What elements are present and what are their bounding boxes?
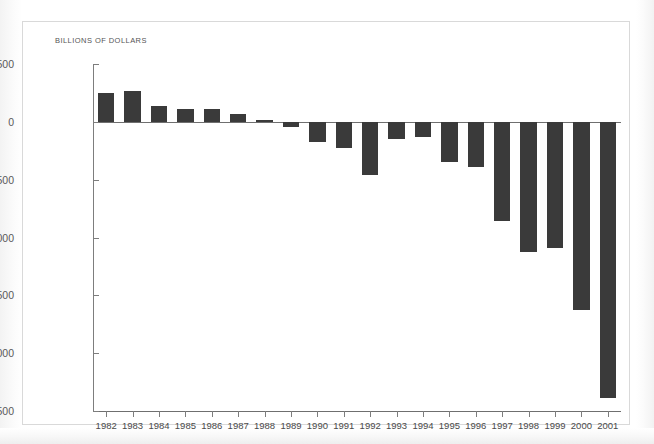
bar-1987 (230, 114, 246, 122)
x-axis-label-1991: 1991 (333, 420, 354, 431)
bar-1985 (177, 109, 193, 122)
zero-baseline (93, 122, 621, 123)
bar-2000 (573, 122, 589, 310)
x-axis-label-1999: 1999 (544, 420, 565, 431)
x-tick-mark (317, 411, 318, 417)
bar-1983 (124, 91, 140, 122)
x-axis-label-1989: 1989 (280, 420, 301, 431)
x-tick-mark (238, 411, 239, 417)
x-tick-mark (423, 411, 424, 417)
x-tick-mark (502, 411, 503, 417)
x-axis-label-2001: 2001 (597, 420, 618, 431)
bar-1991 (336, 122, 352, 149)
x-tick-mark (106, 411, 107, 417)
x-tick-mark (449, 411, 450, 417)
x-tick-mark (185, 411, 186, 417)
y-tick-mark (93, 295, 99, 296)
y-axis-label: 0 (8, 116, 14, 128)
y-axis-label: −2,500 (0, 405, 14, 417)
x-tick-mark (555, 411, 556, 417)
x-axis-label-1982: 1982 (96, 420, 117, 431)
x-axis-label-1987: 1987 (228, 420, 249, 431)
y-axis-label: −2,000 (0, 347, 14, 359)
bar-2001 (600, 122, 616, 398)
bar-1994 (415, 122, 431, 137)
y-tick-mark (93, 64, 99, 65)
x-axis-label-1998: 1998 (518, 420, 539, 431)
x-tick-mark (529, 411, 530, 417)
x-axis-label-1994: 1994 (412, 420, 433, 431)
x-axis-line (93, 411, 621, 412)
x-axis-label-1983: 1983 (122, 420, 143, 431)
x-tick-mark (265, 411, 266, 417)
bar-1996 (468, 122, 484, 167)
bar-1999 (547, 122, 563, 248)
x-axis-label-2000: 2000 (571, 420, 592, 431)
plot-area: BILLIONS OF DOLLARS 5000−500−1000−1,500−… (23, 22, 631, 426)
chart-figure: BILLIONS OF DOLLARS 5000−500−1000−1,500−… (0, 0, 654, 444)
x-tick-mark (608, 411, 609, 417)
bar-1989 (283, 122, 299, 127)
x-tick-mark (344, 411, 345, 417)
y-axis-label: −500 (0, 174, 14, 186)
bar-1990 (309, 122, 325, 142)
bar-1997 (494, 122, 510, 221)
x-axis-label-1990: 1990 (307, 420, 328, 431)
x-tick-mark (133, 411, 134, 417)
x-tick-mark (291, 411, 292, 417)
page-edge-right (636, 0, 654, 444)
bar-1984 (151, 106, 167, 122)
x-tick-mark (397, 411, 398, 417)
bar-1986 (204, 109, 220, 122)
y-axis-label: −1000 (0, 232, 14, 244)
x-tick-mark (581, 411, 582, 417)
x-axis-label-1986: 1986 (201, 420, 222, 431)
chart-frame: BILLIONS OF DOLLARS 5000−500−1000−1,500−… (22, 21, 630, 425)
x-tick-mark (370, 411, 371, 417)
x-axis-label-1985: 1985 (175, 420, 196, 431)
x-axis-label-1984: 1984 (148, 420, 169, 431)
x-axis-label-1988: 1988 (254, 420, 275, 431)
y-tick-mark (93, 238, 99, 239)
x-tick-mark (212, 411, 213, 417)
bar-1993 (388, 122, 404, 139)
bar-1992 (362, 122, 378, 175)
y-axis-label: 500 (0, 58, 14, 70)
bar-1988 (256, 120, 272, 122)
x-tick-mark (159, 411, 160, 417)
bar-1982 (98, 93, 114, 122)
x-axis-label-1997: 1997 (492, 420, 513, 431)
y-tick-mark (93, 122, 99, 123)
y-axis-label: −1,500 (0, 289, 14, 301)
y-axis-title: BILLIONS OF DOLLARS (55, 36, 147, 45)
x-tick-mark (476, 411, 477, 417)
x-axis-label-1992: 1992 (360, 420, 381, 431)
bar-1995 (441, 122, 457, 162)
y-tick-mark (93, 411, 99, 412)
y-tick-mark (93, 353, 99, 354)
x-axis-label-1996: 1996 (465, 420, 486, 431)
x-axis-label-1993: 1993 (386, 420, 407, 431)
bar-1998 (520, 122, 536, 252)
y-tick-mark (93, 180, 99, 181)
x-axis-label-1995: 1995 (439, 420, 460, 431)
